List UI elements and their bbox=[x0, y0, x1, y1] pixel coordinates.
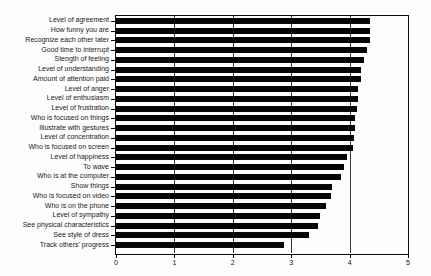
bar bbox=[116, 86, 358, 92]
y-axis-tick bbox=[111, 60, 116, 61]
x-tick-label: 2 bbox=[231, 259, 235, 266]
y-axis-tick bbox=[111, 128, 116, 129]
category-label: Who is focused on screen bbox=[0, 143, 109, 150]
category-label: Level of happiness bbox=[0, 153, 109, 160]
y-axis-tick bbox=[111, 109, 116, 110]
y-axis-tick bbox=[111, 21, 116, 22]
category-label: Level of sympathy bbox=[0, 211, 109, 218]
category-label: Level of agreement bbox=[0, 16, 109, 23]
bar-chart: Level of agreementHow funny you areRecog… bbox=[0, 0, 431, 276]
bar bbox=[116, 18, 370, 24]
bar bbox=[116, 76, 361, 82]
y-axis-tick bbox=[111, 196, 116, 197]
x-axis-tick bbox=[350, 254, 351, 258]
x-tick-label: 4 bbox=[348, 259, 352, 266]
x-tick-label: 5 bbox=[406, 259, 410, 266]
bar bbox=[116, 164, 344, 170]
category-label: Level of understanding bbox=[0, 65, 109, 72]
bar bbox=[116, 145, 353, 151]
bar bbox=[116, 193, 331, 199]
y-axis-tick bbox=[111, 99, 116, 100]
y-axis-tick bbox=[111, 157, 116, 158]
x-axis-tick bbox=[116, 254, 117, 258]
category-label: To wave bbox=[0, 163, 109, 170]
category-label: Recognize each other later bbox=[0, 36, 109, 43]
x-tick-label: 3 bbox=[289, 259, 293, 266]
category-label: Level of frustration bbox=[0, 104, 109, 111]
y-axis-tick bbox=[111, 50, 116, 51]
category-label: How funny you are bbox=[0, 26, 109, 33]
category-label: Who is at the computer bbox=[0, 172, 109, 179]
bar bbox=[116, 223, 318, 229]
y-axis-tick bbox=[111, 177, 116, 178]
bar bbox=[116, 28, 370, 34]
category-label: Who is focused on things bbox=[0, 114, 109, 121]
y-axis-tick bbox=[111, 245, 116, 246]
category-label: See style of dress bbox=[0, 231, 109, 238]
bar bbox=[116, 57, 364, 63]
category-label: Level of enthusiasm bbox=[0, 94, 109, 101]
y-axis-tick bbox=[111, 216, 116, 217]
bar bbox=[116, 125, 355, 131]
x-axis-tick bbox=[291, 254, 292, 258]
y-axis-tick bbox=[111, 40, 116, 41]
category-label: Who is focused on video bbox=[0, 192, 109, 199]
bar bbox=[116, 96, 358, 102]
category-label: See physical characteristics bbox=[0, 221, 109, 228]
y-axis-tick bbox=[111, 138, 116, 139]
category-label: Show things bbox=[0, 182, 109, 189]
category-label: Stength of feeling bbox=[0, 55, 109, 62]
bar bbox=[116, 242, 284, 248]
bar bbox=[116, 47, 367, 53]
category-label: Level of concentration bbox=[0, 133, 109, 140]
y-axis-tick bbox=[111, 118, 116, 119]
bar bbox=[116, 135, 354, 141]
y-axis-tick bbox=[111, 148, 116, 149]
bar bbox=[116, 154, 347, 160]
x-tick-label: 1 bbox=[172, 259, 176, 266]
y-axis-tick bbox=[111, 235, 116, 236]
category-label: Level of anger bbox=[0, 85, 109, 92]
y-axis-tick bbox=[111, 89, 116, 90]
y-axis-tick bbox=[111, 79, 116, 80]
y-axis-tick bbox=[111, 167, 116, 168]
y-axis-tick bbox=[111, 31, 116, 32]
category-label: Track others' progress bbox=[0, 241, 109, 248]
bar bbox=[116, 174, 341, 180]
bar bbox=[116, 232, 309, 238]
category-label: Amount of attention paid bbox=[0, 75, 109, 82]
y-axis-tick bbox=[111, 226, 116, 227]
bar bbox=[116, 67, 361, 73]
bar bbox=[116, 37, 370, 43]
x-axis-tick bbox=[174, 254, 175, 258]
category-label: Good time to interrupt bbox=[0, 46, 109, 53]
y-axis-tick bbox=[111, 70, 116, 71]
y-axis-tick bbox=[111, 187, 116, 188]
x-axis-tick bbox=[233, 254, 234, 258]
category-label: Illustrate with gestures bbox=[0, 124, 109, 131]
y-axis-tick bbox=[111, 206, 116, 207]
category-label: Who is on the phone bbox=[0, 202, 109, 209]
x-tick-label: 0 bbox=[114, 259, 118, 266]
bar bbox=[116, 184, 332, 190]
bar bbox=[116, 106, 357, 112]
x-axis-tick bbox=[408, 254, 409, 258]
bar bbox=[116, 213, 320, 219]
bar bbox=[116, 115, 355, 121]
bar bbox=[116, 203, 326, 209]
